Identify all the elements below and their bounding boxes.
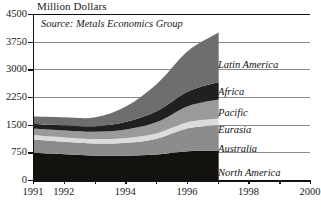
x-tick-mark — [95, 180, 96, 184]
x-tick-mark — [125, 180, 126, 184]
chart-container: Million Dollars 075015002250300037504500… — [0, 0, 321, 209]
x-tick-mark — [218, 180, 219, 184]
series-label-north-america: North America — [218, 167, 281, 178]
plot-area — [33, 14, 310, 180]
x-tick-label: 1992 — [53, 186, 74, 197]
stacked-area-series — [34, 14, 310, 180]
series-label-eurasia: Eurasia — [218, 124, 251, 135]
y-tick-label: 3750 — [0, 37, 27, 48]
y-tick-label: 3000 — [0, 64, 27, 75]
y-tick-label: 750 — [0, 147, 27, 158]
x-tick-mark — [64, 180, 65, 184]
x-tick-mark — [187, 180, 188, 184]
source-annotation: Source: Metals Economics Group — [41, 18, 183, 30]
x-axis-line — [34, 180, 311, 182]
x-tick-mark — [310, 180, 311, 184]
x-tick-label: 1994 — [115, 186, 136, 197]
x-tick-label: 1991 — [23, 186, 44, 197]
x-tick-label: 2000 — [300, 186, 321, 197]
series-label-africa: Africa — [218, 86, 244, 97]
y-tick-label: 4500 — [0, 9, 27, 20]
x-tick-mark — [156, 180, 157, 184]
plot-inner — [34, 14, 310, 180]
x-tick-label: 1998 — [238, 186, 259, 197]
series-label-australia: Australia — [218, 143, 257, 154]
x-tick-mark — [248, 180, 249, 184]
y-tick-label: 0 — [0, 175, 27, 186]
x-tick-mark — [33, 180, 34, 184]
series-label-latin-america: Latin America — [218, 59, 278, 70]
y-tick-label: 1500 — [0, 120, 27, 131]
y-tick-label: 2250 — [0, 92, 27, 103]
x-tick-mark — [279, 180, 280, 184]
x-tick-label: 1996 — [176, 186, 197, 197]
series-label-pacific: Pacific — [218, 107, 248, 118]
